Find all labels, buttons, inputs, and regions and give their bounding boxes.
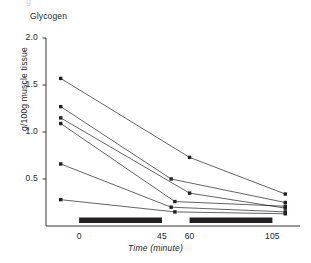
- plot-area: [0, 0, 311, 263]
- data-point-marker: [284, 201, 287, 204]
- x-tick-label: 60: [177, 231, 203, 241]
- y-tick-label: 1.5: [12, 79, 38, 89]
- data-point-marker: [59, 122, 62, 125]
- series-line: [61, 118, 286, 208]
- series-line: [61, 107, 286, 203]
- x-tick-label: 45: [149, 231, 175, 241]
- data-point-marker: [284, 212, 287, 215]
- data-point-marker: [169, 177, 172, 180]
- x-tick-label: 105: [259, 231, 285, 241]
- data-point-marker: [188, 156, 191, 159]
- series-line: [61, 78, 286, 194]
- data-point-marker: [173, 210, 176, 213]
- x-tick-label: 0: [66, 231, 92, 241]
- y-tick-label: 1.0: [12, 126, 38, 136]
- data-point-marker: [59, 116, 62, 119]
- data-point-marker: [284, 205, 287, 208]
- data-point-marker: [284, 192, 287, 195]
- y-tick-label: 2.0: [12, 32, 38, 42]
- data-point-marker: [59, 198, 62, 201]
- data-point-marker: [59, 162, 62, 165]
- data-point-marker: [169, 206, 172, 209]
- data-point-marker: [59, 105, 62, 108]
- data-point-marker: [59, 77, 62, 80]
- data-point-marker: [188, 191, 191, 194]
- series-line: [61, 124, 286, 207]
- series-line: [61, 200, 286, 214]
- data-point-marker: [173, 200, 176, 203]
- chart-figure: g Glycogen g/100g muscle tissue Time (mi…: [0, 0, 311, 263]
- y-tick-label: 0.5: [12, 173, 38, 183]
